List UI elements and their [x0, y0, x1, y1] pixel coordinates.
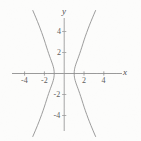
- y-tick-label-neg4: -4: [54, 112, 61, 120]
- y-tick-label-pos2: 2: [57, 49, 61, 57]
- x-axis-label: x: [123, 68, 127, 77]
- x-tick-label-pos4: 4: [102, 77, 106, 85]
- x-tick-label-pos2: 2: [82, 77, 86, 85]
- y-axis-label: y: [62, 7, 66, 16]
- x-tick-label-neg4: -4: [21, 77, 28, 85]
- y-tick-label-neg2: -2: [54, 91, 61, 99]
- plot-canvas: [0, 0, 141, 141]
- hyperbola-graph-figure: -4 -2 2 4 4 2 -2 -4 y x: [0, 0, 141, 141]
- x-tick-label-neg2: -2: [41, 77, 48, 85]
- y-tick-label-pos4: 4: [57, 28, 61, 36]
